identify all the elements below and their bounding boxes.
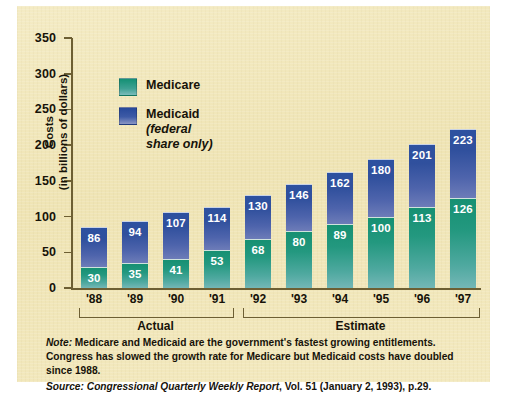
chart-legend: Medicare Medicaid (federal share only) [119, 78, 213, 162]
bar-value-label-medicare: 89 [327, 229, 353, 241]
bar-value-label-medicaid: 223 [450, 134, 476, 146]
bar-y90: 10741 [163, 212, 189, 288]
group-bracket-label: Estimate [243, 319, 478, 333]
legend-label-medicare: Medicare [146, 78, 200, 93]
bar-segment-medicare: 126 [450, 198, 476, 288]
bar-segment-medicaid: 146 [286, 184, 312, 231]
bar-value-label-medicaid: 162 [327, 177, 353, 189]
bar-segment-medicaid: 94 [122, 221, 148, 263]
bar-y96: 201113 [409, 144, 435, 288]
bar-segment-medicare: 100 [368, 217, 394, 288]
bar-segment-medicaid: 223 [450, 129, 476, 198]
bar-y88: 8630 [81, 227, 107, 288]
legend-label-medicaid-sub1: (federal [146, 122, 213, 137]
y-axis-tick-label: 0 [49, 282, 56, 295]
source-title: Congressional Quarterly Weekly Report [84, 381, 279, 392]
bar-segment-medicare: 41 [163, 259, 189, 288]
x-axis-tick-label: '90 [156, 292, 196, 306]
y-axis-title-line2: (in billions of dollars) [57, 74, 69, 190]
bar-y89: 9435 [122, 221, 148, 288]
bar-value-label-medicare: 80 [286, 236, 312, 248]
bar-segment-medicaid: 180 [368, 159, 394, 216]
x-axis-tick-label: '92 [238, 292, 278, 306]
x-axis-tick-label: '91 [197, 292, 237, 306]
bar-segment-medicaid: 114 [204, 207, 230, 251]
bar-value-label-medicaid: 114 [204, 212, 230, 224]
note-prefix: Note: [46, 337, 72, 348]
bar-y94: 16289 [327, 172, 353, 288]
bar-y97: 223126 [450, 129, 476, 288]
y-axis-title: Costs (in billions of dollars) [42, 52, 70, 212]
x-axis-tick-label: '88 [74, 292, 114, 306]
bar-segment-medicaid: 130 [245, 195, 271, 239]
bar-segment-medicare: 80 [286, 231, 312, 288]
x-axis-tick-label: '97 [443, 292, 483, 306]
source-prefix: Source: [46, 381, 84, 392]
bar-segment-medicare: 68 [245, 239, 271, 288]
group-bracket [79, 308, 234, 318]
bar-value-label-medicare: 30 [81, 272, 107, 284]
bar-value-label-medicare: 68 [245, 244, 271, 256]
x-axis-tick-label: '89 [115, 292, 155, 306]
bar-segment-medicare: 30 [81, 267, 107, 288]
x-axis-tick-label: '95 [361, 292, 401, 306]
note-body: Medicare and Medicaid are the government… [46, 337, 454, 376]
bar-y95: 180100 [368, 159, 394, 288]
y-axis-tick-label: 50 [42, 246, 56, 259]
bar-value-label-medicaid: 94 [122, 226, 148, 238]
bar-value-label-medicare: 113 [409, 212, 435, 224]
bar-y91: 11453 [204, 207, 230, 288]
x-axis-spine [71, 288, 481, 290]
bar-segment-medicaid: 162 [327, 172, 353, 224]
legend-label-medicaid-main: Medicaid [146, 107, 200, 121]
bar-value-label-medicaid: 201 [409, 149, 435, 161]
medicaid-swatch-icon [119, 107, 137, 125]
bar-value-label-medicaid: 146 [286, 189, 312, 201]
legend-item-medicare: Medicare [119, 78, 213, 96]
legend-item-medicaid: Medicaid (federal share only) [119, 107, 213, 151]
x-axis-tick-label: '93 [279, 292, 319, 306]
bar-segment-medicaid: 107 [163, 212, 189, 259]
chart-notes: Note: Medicare and Medicaid are the gove… [46, 336, 470, 394]
bar-value-label-medicare: 41 [163, 264, 189, 276]
y-axis-title-line1: Costs [43, 116, 55, 148]
legend-label-medicaid-sub2: share only) [146, 137, 213, 152]
bar-value-label-medicaid: 130 [245, 200, 271, 212]
bar-y92: 13068 [245, 195, 271, 288]
y-axis-tick-label: 100 [35, 211, 56, 224]
bar-y93: 14680 [286, 184, 312, 288]
source-rest: , Vol. 51 (January 2, 1993), p.29. [279, 381, 431, 392]
bar-segment-medicare: 53 [204, 250, 230, 288]
bar-segment-medicare: 113 [409, 207, 435, 288]
y-axis-tick-label: 350 [35, 32, 56, 45]
bar-value-label-medicare: 53 [204, 255, 230, 267]
source-line: Source: Congressional Quarterly Weekly R… [46, 380, 470, 394]
chart-figure: 050100150200250300350 Costs (in billions… [0, 0, 507, 399]
group-bracket [243, 308, 480, 318]
group-bracket-label: Actual [79, 319, 232, 333]
bar-segment-medicaid: 86 [81, 227, 107, 267]
bar-value-label-medicaid: 180 [368, 164, 394, 176]
bar-value-label-medicaid: 107 [163, 217, 189, 229]
legend-label-medicaid: Medicaid (federal share only) [146, 107, 213, 151]
plot-area: 8630943510741114531306814680162891801002… [71, 38, 481, 288]
note-line: Note: Medicare and Medicaid are the gove… [46, 336, 470, 378]
medicare-swatch-icon [119, 78, 137, 96]
bar-value-label-medicaid: 86 [81, 232, 107, 244]
bar-segment-medicare: 89 [327, 224, 353, 288]
bar-value-label-medicare: 126 [450, 203, 476, 215]
bar-segment-medicaid: 201 [409, 144, 435, 207]
x-axis-tick-label: '96 [402, 292, 442, 306]
bar-value-label-medicare: 35 [122, 268, 148, 280]
bar-segment-medicare: 35 [122, 263, 148, 288]
bar-value-label-medicare: 100 [368, 222, 394, 234]
x-axis-tick-label: '94 [320, 292, 360, 306]
